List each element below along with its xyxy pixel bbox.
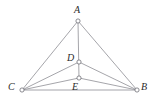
geometry-figure: ABCDE [0,0,155,104]
edge-C-D [22,62,79,90]
vertex-label-d: D [67,53,74,63]
edge-B-D [79,62,137,90]
vertex-label-c: C [8,82,15,92]
vertex-marker-d [77,60,81,64]
edge-A-E [78,21,79,78]
vertex-label-b: B [141,82,147,92]
vertex-marker-c [20,88,24,92]
vertex-label-a: A [74,5,80,15]
vertex-marker-a [76,19,80,23]
vertex-markers-group [20,19,139,92]
vertex-marker-e [77,76,81,80]
vertex-label-e: E [72,82,78,92]
vertex-marker-b [135,88,139,92]
